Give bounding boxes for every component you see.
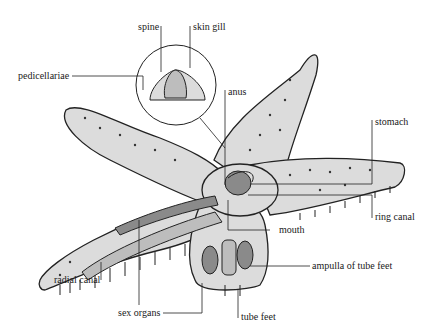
label-skin-gill: skin gill [193,22,226,32]
label-ampulla: ampulla of tube feet [312,261,392,271]
arm-upper-left [65,108,225,205]
label-tube-feet: tube feet [241,312,276,322]
label-anus: anus [228,87,246,97]
label-radial-canal: radial canal [54,275,100,285]
label-pedicellariae: pedicellariae [18,71,69,81]
label-stomach: stomach [375,117,408,127]
label-spine: spine [138,22,159,32]
label-ring-canal: ring canal [375,212,415,222]
label-sex-organs: sex organs [118,308,160,318]
label-mouth: mouth [279,225,305,235]
inset-magnifier [136,45,225,148]
